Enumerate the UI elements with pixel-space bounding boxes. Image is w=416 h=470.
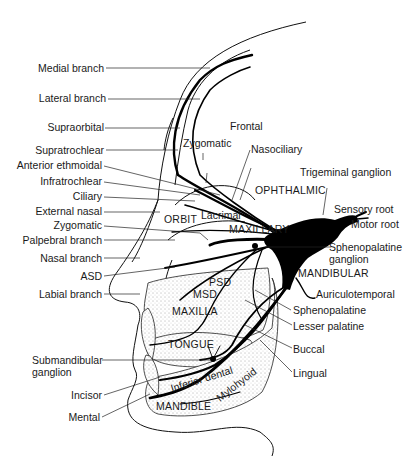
label-palpebral-branch: Palpebral branch	[23, 234, 103, 246]
label-nasal-branch: Nasal branch	[40, 252, 102, 264]
label-auriculotemporal: Auriculotemporal	[316, 288, 395, 300]
label-medial-branch: Medial branch	[38, 62, 104, 74]
label-buccal: Buccal	[293, 343, 325, 355]
label-ganglion-right: ganglion	[329, 253, 369, 265]
label-lateral-branch: Lateral branch	[39, 92, 106, 104]
top-labels: Frontal Zygomatic Nasociliary OPHTHALMIC	[183, 120, 326, 196]
label-lesser-palatine: Lesser palatine	[293, 320, 364, 332]
label-submandibular: Submandibular	[32, 354, 103, 366]
right-labels: Trigeminal ganglion Sensory root Motor r…	[293, 166, 402, 379]
label-ophthalmic: OPHTHALMIC	[255, 184, 326, 196]
label-motor-root: Motor root	[351, 218, 399, 230]
label-tongue: TONGUE	[168, 338, 214, 350]
label-anterior-ethmoidal: Anterior ethmoidal	[17, 159, 102, 171]
label-supratrochlear: Supratrochlear	[35, 144, 104, 156]
diagram-canvas: Medial branch Lateral branch Supraorbita…	[0, 0, 416, 470]
label-maxilla: MAXILLA	[172, 305, 218, 317]
sphenopalatine-ganglion-dot	[252, 243, 258, 249]
label-labial-branch: Labial branch	[39, 288, 102, 300]
label-lingual: Lingual	[293, 367, 327, 379]
label-psd: PSD	[209, 276, 231, 288]
label-lacrimal: Lacrimal	[201, 209, 241, 221]
label-maxillary: MAXILLARY	[229, 223, 290, 235]
label-ciliary: Ciliary	[73, 190, 103, 202]
label-orbit: ORBIT	[164, 213, 197, 225]
label-frontal: Frontal	[230, 120, 263, 132]
label-trigeminal-ganglion: Trigeminal ganglion	[300, 166, 391, 178]
trigeminal-nerve-diagram: Medial branch Lateral branch Supraorbita…	[0, 0, 416, 470]
label-sensory-root: Sensory root	[334, 203, 394, 215]
label-supraorbital: Supraorbital	[47, 121, 104, 133]
label-nasociliary: Nasociliary	[251, 143, 303, 155]
label-incisor: Incisor	[71, 389, 102, 401]
label-sphenopalatine-ganglion: Sphenopalatine	[329, 241, 402, 253]
left-labels: Medial branch Lateral branch Supraorbita…	[17, 62, 106, 423]
label-msd: MSD	[193, 288, 217, 300]
label-asd: ASD	[80, 270, 102, 282]
label-infratrochlear: Infratrochlear	[40, 175, 102, 187]
label-external-nasal: External nasal	[35, 205, 102, 217]
label-zygomatic-top: Zygomatic	[183, 137, 231, 149]
label-ganglion-left: ganglion	[32, 366, 72, 378]
label-zygomatic-left: Zygomatic	[54, 219, 102, 231]
label-mandibular: MANDIBULAR	[298, 267, 369, 279]
label-mental: Mental	[68, 411, 100, 423]
label-mandible: MANDIBLE	[156, 400, 211, 412]
label-sphenopalatine: Sphenopalatine	[293, 304, 366, 316]
